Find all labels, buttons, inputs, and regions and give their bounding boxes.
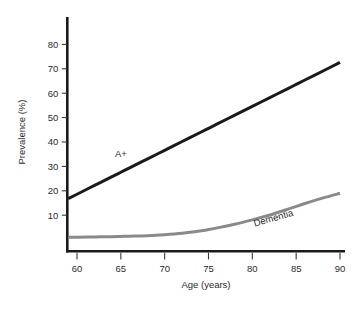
x-axis-tick-labels: 60657075808590 bbox=[72, 263, 346, 274]
x-tick-label: 85 bbox=[291, 263, 302, 274]
x-tick-label: 75 bbox=[203, 263, 214, 274]
series-line-dementia bbox=[68, 193, 340, 237]
series-label-dementia: Dementia bbox=[252, 207, 295, 229]
series-line-a- bbox=[68, 62, 340, 198]
y-tick-label: 30 bbox=[48, 161, 59, 172]
series-label-a-: A+ bbox=[115, 148, 127, 159]
y-tick-label: 70 bbox=[48, 63, 59, 74]
y-tick-label: 50 bbox=[48, 112, 59, 123]
y-axis-title: Prevalence (%) bbox=[16, 100, 27, 165]
chart-figure: 1020304050607080 60657075808590 A+Dement… bbox=[0, 0, 364, 309]
y-axis-tick-labels: 1020304050607080 bbox=[48, 39, 59, 221]
y-tick-label: 40 bbox=[48, 136, 59, 147]
y-tick-label: 20 bbox=[48, 185, 59, 196]
series-annotations: A+Dementia bbox=[115, 148, 295, 229]
series-lines bbox=[68, 62, 340, 237]
x-tick-label: 65 bbox=[116, 263, 127, 274]
y-tick-label: 10 bbox=[48, 210, 59, 221]
x-tick-label: 60 bbox=[72, 263, 83, 274]
x-tick-label: 90 bbox=[335, 263, 346, 274]
x-tick-label: 80 bbox=[247, 263, 258, 274]
x-axis-title: Age (years) bbox=[181, 279, 230, 290]
y-tick-label: 60 bbox=[48, 88, 59, 99]
prevalence-vs-age-line-chart: 1020304050607080 60657075808590 A+Dement… bbox=[0, 0, 364, 309]
y-tick-label: 80 bbox=[48, 39, 59, 50]
x-axis-ticks bbox=[77, 253, 340, 260]
x-tick-label: 70 bbox=[159, 263, 170, 274]
